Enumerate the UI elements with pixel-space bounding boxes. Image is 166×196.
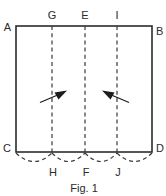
fold-label-i: I	[115, 9, 118, 21]
vertex-label-a: A	[4, 21, 12, 33]
fold-label-g: G	[48, 9, 57, 21]
vertex-label-c: C	[3, 142, 11, 154]
arc-j-d	[117, 153, 152, 162]
fold-label-e: E	[81, 9, 88, 21]
fold-label-h: H	[49, 166, 57, 178]
fold-label-f: F	[83, 166, 90, 178]
figure-diagram: A B C D G E I H F J Fig. 1	[0, 0, 166, 196]
fold-label-j: J	[115, 166, 121, 178]
figure-container: A B C D G E I H F J Fig. 1	[0, 0, 166, 196]
vertex-label-b: B	[156, 25, 163, 37]
arc-h-f	[52, 153, 85, 162]
arc-f-j	[85, 153, 117, 162]
vertex-label-d: D	[156, 142, 164, 154]
figure-caption: Fig. 1	[70, 182, 98, 194]
arc-c-h	[16, 153, 52, 162]
sheet-body	[16, 26, 152, 152]
